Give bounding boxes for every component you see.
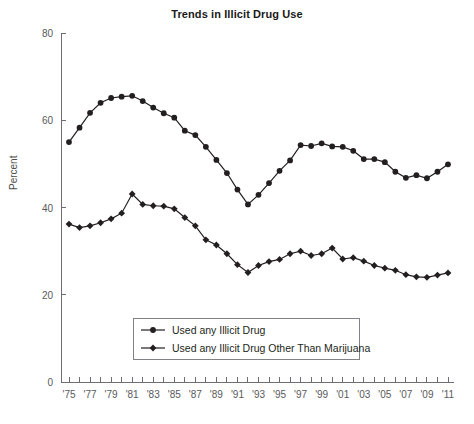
- data-point-marker: [182, 128, 188, 134]
- x-tick-label: '07: [399, 389, 412, 400]
- data-point-marker: [245, 202, 251, 208]
- data-point-marker: [435, 169, 441, 175]
- data-point-marker: [118, 210, 125, 217]
- data-point-marker: [129, 93, 135, 99]
- data-point-marker: [392, 169, 398, 175]
- data-point-marker: [277, 168, 283, 174]
- x-tick-label: '89: [210, 389, 223, 400]
- data-point-marker: [318, 250, 325, 257]
- data-point-marker: [160, 203, 167, 210]
- data-series-group: [66, 93, 452, 281]
- data-point-marker: [87, 222, 94, 229]
- data-point-marker: [266, 258, 273, 265]
- y-tick-label: 40: [42, 203, 54, 214]
- data-point-marker: [119, 94, 125, 100]
- data-point-marker: [361, 156, 367, 162]
- data-point-marker: [224, 170, 230, 176]
- data-point-marker: [213, 157, 219, 163]
- data-point-marker: [235, 187, 241, 193]
- x-tick-label: '01: [336, 389, 349, 400]
- series-diamond: [66, 191, 452, 281]
- data-point-marker: [150, 105, 156, 111]
- data-point-marker: [255, 262, 262, 269]
- data-point-marker: [445, 270, 452, 277]
- data-point-marker: [203, 144, 209, 150]
- data-point-marker: [308, 252, 315, 259]
- x-tick-label: '97: [294, 389, 307, 400]
- data-point-marker: [371, 156, 377, 162]
- x-tick-label: '09: [420, 389, 433, 400]
- legend-item-2[interactable]: Used any Illicit Drug Other Than Marijua…: [141, 342, 370, 354]
- y-tick-label: 60: [42, 115, 54, 126]
- x-tick-label: '83: [147, 389, 160, 400]
- data-point-marker: [150, 202, 157, 209]
- data-point-marker: [276, 256, 283, 263]
- data-point-marker: [445, 161, 451, 167]
- data-point-marker: [402, 271, 409, 278]
- x-tick-label: '05: [378, 389, 391, 400]
- data-point-marker: [424, 175, 430, 181]
- legend-label: Used any Illicit Drug Other Than Marijua…: [172, 342, 370, 354]
- data-point-marker: [287, 250, 294, 257]
- data-point-marker: [350, 148, 356, 154]
- chart-legend: Used any Illicit DrugUsed any Illicit Dr…: [133, 318, 370, 359]
- data-point-marker: [77, 125, 83, 131]
- data-point-marker: [108, 95, 114, 101]
- data-point-marker: [108, 215, 115, 222]
- data-point-marker: [308, 143, 314, 149]
- series-circle: [66, 93, 451, 207]
- x-tick-label: '87: [189, 389, 202, 400]
- x-tick-label: '95: [273, 389, 286, 400]
- data-point-marker: [256, 192, 262, 198]
- data-point-marker: [360, 258, 367, 265]
- x-tick-label: '75: [62, 389, 75, 400]
- y-tick-label: 20: [42, 290, 54, 301]
- x-tick-label: '11: [442, 389, 455, 400]
- data-point-marker: [87, 110, 93, 116]
- x-tick-label: '81: [126, 389, 139, 400]
- data-point-marker: [298, 142, 304, 148]
- data-point-marker: [382, 159, 388, 165]
- data-point-marker: [297, 248, 304, 255]
- x-tick-label: '99: [315, 389, 328, 400]
- y-tick-label: 80: [42, 28, 54, 39]
- data-point-marker: [319, 140, 325, 146]
- data-point-marker: [98, 100, 104, 106]
- data-point-marker: [171, 115, 177, 121]
- data-point-marker: [161, 110, 167, 116]
- data-point-marker: [329, 144, 335, 150]
- data-point-marker: [140, 98, 146, 104]
- x-tick-label: '79: [105, 389, 118, 400]
- y-tick-label: 0: [47, 377, 53, 388]
- x-tick-label: '85: [168, 389, 181, 400]
- data-point-marker: [97, 219, 104, 226]
- x-axis-ticks: '75'77'79'81'83'85'87'89'91'93'95'97'99'…: [62, 377, 454, 400]
- data-point-marker: [403, 175, 409, 181]
- x-tick-label: '93: [252, 389, 265, 400]
- x-tick-label: '03: [357, 389, 370, 400]
- data-point-marker: [413, 273, 420, 280]
- x-tick-label: '91: [231, 389, 244, 400]
- y-axis-ticks: 020406080: [42, 28, 66, 388]
- data-point-marker: [266, 180, 272, 186]
- data-point-marker: [150, 327, 156, 333]
- data-point-marker: [414, 172, 420, 178]
- x-tick-label: '77: [84, 389, 97, 400]
- chart-container: Trends in Illicit Drug Use Percent 02040…: [0, 0, 474, 424]
- data-point-marker: [350, 254, 357, 261]
- data-point-marker: [424, 274, 431, 281]
- data-point-marker: [76, 224, 83, 231]
- data-point-marker: [66, 221, 73, 228]
- data-point-marker: [381, 265, 388, 272]
- data-point-marker: [340, 144, 346, 150]
- legend-label: Used any Illicit Drug: [172, 324, 266, 336]
- data-point-marker: [66, 139, 72, 145]
- series-line: [69, 96, 448, 205]
- data-point-marker: [434, 272, 441, 279]
- data-point-marker: [392, 267, 399, 274]
- plot-area: 020406080 '75'77'79'81'83'85'87'89'91'93…: [0, 0, 474, 424]
- data-point-marker: [371, 262, 378, 269]
- data-point-marker: [287, 157, 293, 163]
- data-point-marker: [192, 132, 198, 138]
